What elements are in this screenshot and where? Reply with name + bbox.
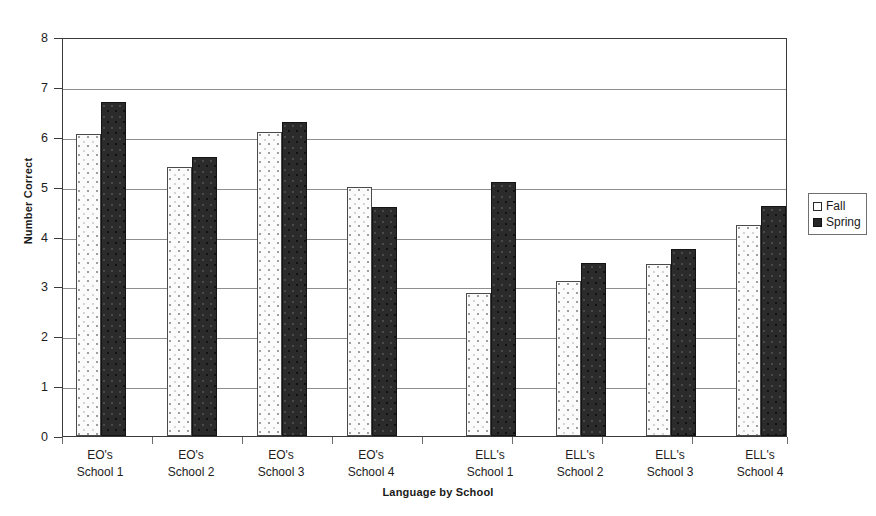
bar-spring-3: [282, 122, 307, 436]
y-tick-mark: [54, 337, 62, 338]
y-tick-mark: [54, 238, 62, 239]
x-category-label: ELL'sSchool 4: [705, 447, 815, 481]
x-tick-mark: [62, 437, 63, 444]
bar-fall-6: [556, 281, 581, 436]
y-tick-label: 1: [8, 381, 48, 394]
y-tick-mark: [54, 287, 62, 288]
y-tick-label: 0: [8, 431, 48, 444]
x-category-label-line2: School 4: [705, 464, 815, 481]
bar-spring-8: [761, 206, 786, 436]
plot-area: [62, 38, 787, 437]
x-tick-mark: [692, 437, 693, 444]
legend-swatch-fall-icon: [813, 202, 822, 211]
x-category-label-line1: EO's: [87, 448, 113, 462]
y-tick-mark: [54, 387, 62, 388]
y-axis-title: Number Correct: [22, 121, 34, 281]
y-tick-label: 7: [8, 82, 48, 95]
x-tick-mark: [242, 437, 243, 444]
bar-spring-2: [192, 157, 217, 436]
y-tick-label: 4: [8, 232, 48, 245]
chart-legend: FallSpring: [808, 193, 867, 235]
x-category-label-line1: EO's: [268, 448, 294, 462]
legend-item-spring: Spring: [813, 214, 861, 230]
bar-spring-7: [671, 249, 696, 436]
x-tick-mark: [787, 437, 788, 444]
bar-spring-5: [491, 182, 516, 436]
bar-fall-3: [257, 132, 282, 436]
bar-spring-4: [372, 207, 397, 436]
legend-label: Fall: [826, 198, 845, 214]
x-category-label-line1: EO's: [358, 448, 384, 462]
bar-fall-8: [736, 225, 761, 436]
x-category-label-line1: EO's: [178, 448, 204, 462]
y-tick-mark: [54, 88, 62, 89]
x-axis-title: Language by School: [0, 486, 876, 498]
x-tick-mark: [602, 437, 603, 444]
legend-swatch-spring-icon: [813, 218, 822, 227]
y-tick-mark: [54, 138, 62, 139]
y-tick-mark: [54, 38, 62, 39]
x-tick-mark: [422, 437, 423, 444]
gridline: [63, 139, 786, 140]
bar-chart: Number Correct 012345678 EO'sSchool 1EO'…: [0, 0, 876, 516]
bar-fall-7: [646, 264, 671, 436]
legend-item-fall: Fall: [813, 198, 861, 214]
x-tick-mark: [512, 437, 513, 444]
y-tick-label: 6: [8, 132, 48, 145]
x-category-label-line1: ELL's: [655, 448, 685, 462]
bar-fall-1: [76, 134, 101, 436]
x-category-label: EO'sSchool 4: [316, 447, 426, 481]
y-tick-mark: [54, 437, 62, 438]
bar-fall-5: [466, 293, 491, 436]
x-category-label-line1: ELL's: [745, 448, 775, 462]
x-tick-mark: [152, 437, 153, 444]
y-tick-label: 8: [8, 32, 48, 45]
bar-spring-6: [581, 263, 606, 436]
x-category-label-line1: ELL's: [475, 448, 505, 462]
x-category-label-line2: School 4: [316, 464, 426, 481]
legend-label: Spring: [826, 214, 861, 230]
x-category-label-line1: ELL's: [565, 448, 595, 462]
y-tick-label: 5: [8, 182, 48, 195]
bar-spring-1: [101, 102, 126, 436]
y-tick-label: 2: [8, 331, 48, 344]
y-tick-label: 3: [8, 281, 48, 294]
bar-fall-2: [167, 167, 192, 436]
bar-fall-4: [347, 187, 372, 436]
gridline: [63, 89, 786, 90]
y-tick-mark: [54, 188, 62, 189]
x-tick-mark: [332, 437, 333, 444]
